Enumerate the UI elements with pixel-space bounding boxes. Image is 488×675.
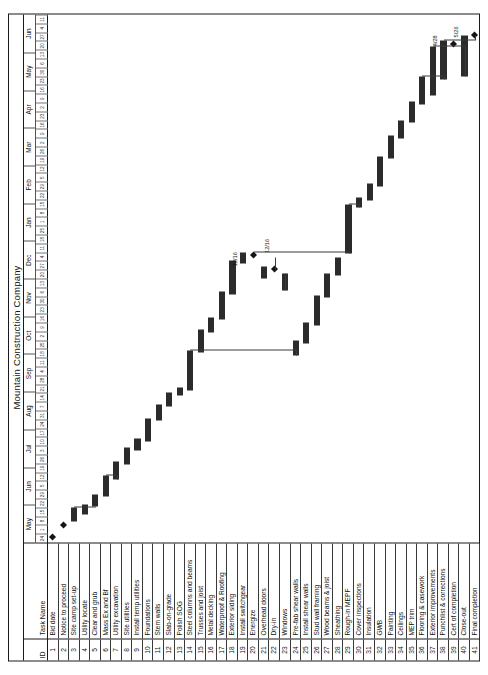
- milestone-diamond[interactable]: [49, 533, 56, 540]
- row-task-name[interactable]: Cert of completion: [449, 543, 460, 638]
- row-task-name[interactable]: Utility excavation: [111, 543, 122, 638]
- gantt-bar[interactable]: [187, 350, 193, 390]
- row-id: 35: [407, 639, 418, 660]
- row-task-name[interactable]: Site utilities: [122, 543, 133, 638]
- week-tick: 16: [36, 313, 48, 322]
- week-tick: 25: [36, 225, 48, 234]
- row-task-name[interactable]: Metal decking: [206, 543, 217, 638]
- row-task-name[interactable]: Painting: [386, 543, 397, 638]
- week-tick: 29: [36, 489, 48, 498]
- row-task-name[interactable]: Cover inspections: [354, 543, 365, 638]
- gantt-bar[interactable]: [324, 273, 330, 298]
- gantt-bar[interactable]: [419, 77, 425, 104]
- week-tick: 3: [36, 445, 48, 454]
- row-task-name[interactable]: Close-out: [459, 543, 470, 638]
- week-tick: 9: [36, 93, 48, 102]
- row-task-name[interactable]: Exterior siding: [227, 543, 238, 638]
- week-tick: 5: [36, 480, 48, 489]
- gantt-bar[interactable]: [156, 404, 162, 420]
- gantt-bar[interactable]: [388, 135, 394, 158]
- week-tick: 20: [36, 269, 48, 278]
- gantt-bar[interactable]: [367, 183, 373, 200]
- row-task-name[interactable]: Install switchgear: [238, 543, 249, 638]
- milestone-diamond[interactable]: [60, 521, 67, 528]
- row-task-name[interactable]: Sheathing: [333, 543, 344, 638]
- gantt-bar[interactable]: [398, 120, 404, 138]
- gantt-bar[interactable]: [208, 317, 214, 332]
- gantt-bar[interactable]: [166, 392, 172, 406]
- month-label-apr-11: Apr: [24, 90, 35, 128]
- gantt-bar[interactable]: [345, 204, 351, 253]
- row-task-name[interactable]: Exterior improvements: [428, 543, 439, 638]
- week-tick: 6: [36, 287, 48, 296]
- gantt-bar[interactable]: [335, 257, 341, 275]
- row-task-name[interactable]: Polish SOG: [175, 543, 186, 638]
- gantt-bar[interactable]: [71, 507, 77, 521]
- row-task-name[interactable]: Punchlist & corrections: [438, 543, 449, 638]
- gantt-bar[interactable]: [124, 447, 130, 464]
- gantt-bar[interactable]: [240, 253, 246, 264]
- row-task-name[interactable]: Foundations: [143, 543, 154, 638]
- row-task-name[interactable]: Pre-fab shear walls: [291, 543, 302, 638]
- row-task-name[interactable]: Energize: [248, 543, 259, 638]
- row-task-name[interactable]: Flooring & casework: [417, 543, 428, 638]
- gantt-bar[interactable]: [303, 322, 309, 343]
- gantt-row: [438, 14, 449, 542]
- row-task-name[interactable]: Install temp utilities: [132, 543, 143, 638]
- row-task-name[interactable]: MEP trim: [407, 543, 418, 638]
- milestone-diamond[interactable]: [250, 251, 257, 258]
- gantt-bar[interactable]: [440, 40, 446, 79]
- dependency-link: [349, 203, 360, 204]
- row-task-name[interactable]: Bid date: [48, 543, 59, 638]
- gantt-row: [59, 14, 70, 542]
- dependency-link: [275, 257, 276, 269]
- row-task-name[interactable]: Install shear walls: [301, 543, 312, 638]
- row-task-name[interactable]: Overhead doors: [259, 543, 270, 638]
- gantt-bar[interactable]: [430, 46, 436, 95]
- row-task-name[interactable]: Stud wall framing: [312, 543, 323, 638]
- gantt-row: [90, 14, 101, 542]
- gantt-bar[interactable]: [219, 291, 225, 319]
- dependency-link: [296, 350, 297, 355]
- row-task-name[interactable]: Notice to proceed: [59, 543, 70, 638]
- gantt-row: [217, 14, 228, 542]
- gantt-bar[interactable]: [314, 295, 320, 325]
- row-task-name[interactable]: Steel columns and beams: [185, 543, 196, 638]
- gantt-bar[interactable]: [409, 101, 415, 122]
- gantt-bar[interactable]: [145, 418, 151, 441]
- row-task-name[interactable]: Clear and grub: [90, 543, 101, 638]
- gantt-row: [132, 14, 143, 542]
- gantt-row: [343, 14, 354, 542]
- row-task-name[interactable]: Stem walls: [153, 543, 164, 638]
- row-task-name[interactable]: Utility locate: [80, 543, 91, 638]
- gantt-bar[interactable]: [134, 438, 140, 449]
- row-task-name[interactable]: Dry-in: [269, 543, 280, 638]
- week-tick: 16: [36, 84, 48, 93]
- gantt-sheet: Mountain Construction Company ID Task Na…: [8, 13, 480, 661]
- row-task-name[interactable]: Site camp set-up: [69, 543, 80, 638]
- row-task-name[interactable]: Waterproof & Roofing: [217, 543, 228, 638]
- row-task-name[interactable]: Trusses and joist: [196, 543, 207, 638]
- gantt-bar[interactable]: [377, 156, 383, 186]
- row-task-name[interactable]: Windows: [280, 543, 291, 638]
- row-task-name[interactable]: Wood beams & joist: [322, 543, 333, 638]
- gantt-bar[interactable]: [92, 494, 98, 506]
- row-id: 34: [396, 639, 407, 660]
- row-task-name[interactable]: Final completion: [470, 543, 481, 638]
- gantt-bar[interactable]: [177, 387, 183, 395]
- row-task-name[interactable]: Slab-on-grade: [164, 543, 175, 638]
- row-id: 2: [59, 639, 70, 660]
- gantt-bar[interactable]: [103, 475, 109, 496]
- gantt-bar[interactable]: [261, 266, 267, 278]
- gantt-bar[interactable]: [198, 329, 204, 352]
- row-task-name[interactable]: Insulation: [364, 543, 375, 638]
- gantt-row: [259, 14, 270, 542]
- row-task-name[interactable]: Mass Ex and Bf: [101, 543, 112, 638]
- row-task-name[interactable]: Rough-in MEPF: [343, 543, 354, 638]
- row-id: 12: [164, 639, 175, 660]
- row-task-name[interactable]: Ceilings: [396, 543, 407, 638]
- row-task-name[interactable]: GWB: [375, 543, 386, 638]
- week-tick: 2: [36, 331, 48, 340]
- week-tick: 19: [36, 463, 48, 472]
- week-tick: 18: [36, 234, 48, 243]
